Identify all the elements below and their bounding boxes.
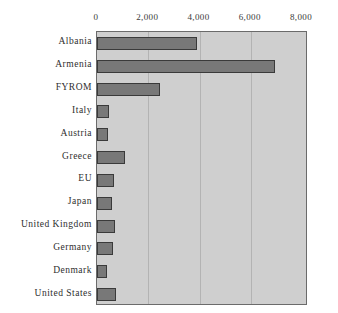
bar-row [97, 78, 306, 101]
bar-row [97, 260, 306, 283]
category-label: United Kingdom [0, 219, 92, 229]
bars-layer [97, 32, 306, 304]
bar [97, 197, 112, 210]
bar-row [97, 55, 306, 78]
category-label: Denmark [0, 265, 92, 275]
category-label: Armenia [0, 59, 92, 69]
category-label: Germany [0, 242, 92, 252]
bar-row [97, 283, 306, 306]
bar [97, 220, 115, 233]
bar [97, 174, 114, 187]
plot-area [96, 31, 307, 305]
category-label: Albania [0, 36, 92, 46]
x-tick-label: 0 [94, 12, 99, 22]
bar [97, 105, 109, 118]
bar [97, 151, 125, 164]
bar-row [97, 169, 306, 192]
category-label: United States [0, 288, 92, 298]
category-label: Austria [0, 128, 92, 138]
bar [97, 60, 275, 73]
category-label: Italy [0, 105, 92, 115]
bar [97, 288, 116, 301]
category-label: FYROM [0, 82, 92, 92]
bar-row [97, 32, 306, 55]
bar-row [97, 146, 306, 169]
bar-chart: 02,0004,0006,0008,000 AlbaniaArmeniaFYRO… [0, 0, 338, 313]
bar-row [97, 215, 306, 238]
category-label: Japan [0, 196, 92, 206]
category-label: Greece [0, 151, 92, 161]
bar [97, 37, 197, 50]
x-axis-tick-labels: 02,0004,0006,0008,000 [0, 12, 338, 26]
x-tick-label: 8,000 [290, 12, 312, 22]
bar-row [97, 238, 306, 261]
bar-row [97, 192, 306, 215]
x-tick-label: 2,000 [136, 12, 158, 22]
category-label: EU [0, 173, 92, 183]
y-axis-category-labels: AlbaniaArmeniaFYROMItalyAustriaGreeceEUJ… [0, 31, 92, 305]
bar-row [97, 101, 306, 124]
bar [97, 265, 107, 278]
bar [97, 128, 108, 141]
x-tick-label: 6,000 [239, 12, 261, 22]
bar-row [97, 123, 306, 146]
bar [97, 242, 113, 255]
x-tick-label: 4,000 [187, 12, 209, 22]
bar [97, 83, 160, 96]
